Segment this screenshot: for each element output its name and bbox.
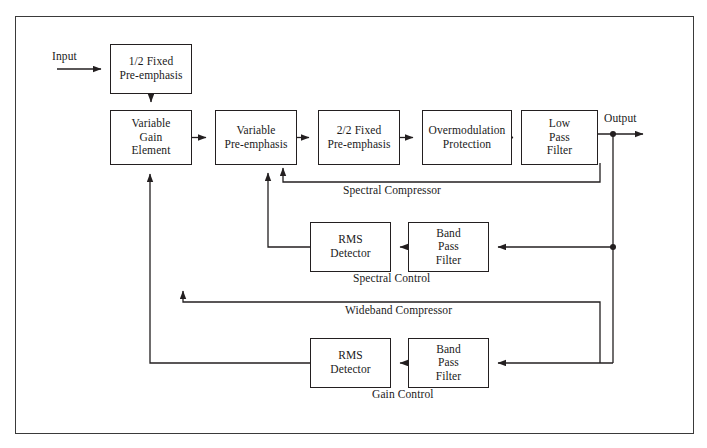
junction-dot-output <box>610 131 616 137</box>
input-label: Input <box>52 50 77 62</box>
label-gain-control: Gain Control <box>372 388 434 400</box>
block-diagram-canvas: Input Output 1/2 Fixed Pre-emphasis Vari… <box>0 0 707 448</box>
block-rms-detector-spectral[interactable]: RMS Detector <box>310 222 391 272</box>
block-variable-gain-element[interactable]: Variable Gain Element <box>110 110 192 165</box>
block-overmodulation-protection[interactable]: Overmodulation Protection <box>422 110 512 165</box>
label-spectral-compressor: Spectral Compressor <box>343 184 441 196</box>
edge-wideband-compressor-feedback <box>183 291 600 363</box>
output-label: Output <box>604 112 637 124</box>
block-rms-detector-gain[interactable]: RMS Detector <box>310 338 391 388</box>
block-variable-preemphasis[interactable]: Variable Pre-emphasis <box>215 110 297 165</box>
edge-spectral-compressor-feedback <box>283 163 600 182</box>
edge-rms-gain-to-variable-gain-element <box>150 174 310 363</box>
junction-dot-spectral-tap <box>610 244 616 250</box>
edge-rms-spectral-to-variable-preemphasis <box>268 173 310 247</box>
label-spectral-control: Spectral Control <box>353 272 430 284</box>
block-band-pass-filter-spectral[interactable]: Band Pass Filter <box>408 222 489 272</box>
block-fixed-preemphasis-1[interactable]: 1/2 Fixed Pre-emphasis <box>110 44 192 94</box>
label-wideband-compressor: Wideband Compressor <box>345 304 452 316</box>
block-band-pass-filter-gain[interactable]: Band Pass Filter <box>408 338 489 388</box>
block-fixed-preemphasis-2[interactable]: 2/2 Fixed Pre-emphasis <box>318 110 400 165</box>
block-low-pass-filter[interactable]: Low Pass Filter <box>521 110 598 165</box>
